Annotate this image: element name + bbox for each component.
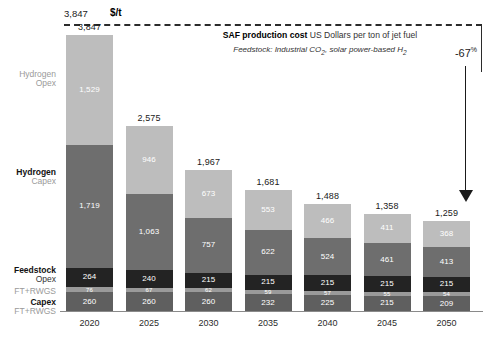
segment-capex-ft-rwgs-2035: 232: [245, 294, 292, 311]
x-axis-label-2035: 2035: [245, 318, 292, 328]
segment-capex-ft-rwgs-2020: 260: [66, 292, 113, 311]
segment-hydrogen-capex-2035: 622: [245, 230, 292, 275]
segment-value-label: 622: [261, 248, 275, 256]
segment-hydrogen-opex-2025: 946: [126, 126, 173, 194]
segment-value-label: 215: [321, 279, 335, 287]
saf-production-cost-chart: 3,847 $/t SAF production cost US Dollars…: [0, 0, 499, 346]
bar-total-label-2045: 1,358: [364, 201, 411, 211]
segment-hydrogen-opex-2020: 1,529: [66, 35, 113, 145]
x-axis-label-2050: 2050: [423, 318, 470, 328]
segment-value-label: 1,719: [79, 202, 100, 210]
segment-value-label: 413: [440, 258, 454, 266]
label-ft-rwgs-opex: FT+RWGS: [14, 287, 56, 296]
label-hydrogen-opex: Hydrogen Opex: [19, 70, 56, 88]
segment-feedstock-opex-2025: 240: [126, 270, 173, 287]
x-axis-label-2030: 2030: [185, 318, 232, 328]
segment-feedstock-opex-2045: 215: [364, 276, 411, 291]
segment-capex-ft-rwgs-2045: 215: [364, 296, 411, 311]
bar-2020: 3,8471,5291,71926476260: [66, 35, 113, 311]
segment-feedstock-opex-2050: 215: [423, 277, 470, 292]
segment-hydrogen-capex-2045: 461: [364, 243, 411, 276]
segment-value-label: 411: [380, 224, 393, 232]
label-feedstock-opex: Feedstock Opex: [14, 266, 56, 284]
segment-value-label: 215: [380, 280, 394, 288]
x-axis-label-2020: 2020: [66, 318, 113, 328]
bar-total-label-2035: 1,681: [245, 177, 292, 187]
segment-value-label: 240: [142, 275, 156, 283]
segment-hydrogen-capex-2020: 1,719: [66, 145, 113, 268]
bar-2050: 1,25936841321554209: [423, 221, 470, 311]
bar-2025: 2,5759461,06324067260: [126, 126, 173, 311]
segment-feedstock-opex-2040: 215: [304, 275, 351, 290]
segment-hydrogen-capex-2040: 524: [304, 238, 351, 276]
segment-hydrogen-opex-2040: 466: [304, 204, 351, 237]
label-ft-rwgs-capex: Capex FT+RWGS: [14, 298, 56, 316]
label-hydrogen-opex-line2: Opex: [19, 79, 56, 88]
x-axis-label-2025: 2025: [126, 318, 173, 328]
segment-value-label: 225: [321, 299, 335, 307]
segment-value-label: 260: [202, 298, 216, 306]
segment-feedstock-opex-2020: 264: [66, 268, 113, 287]
bar-total-label-2050: 1,259: [423, 208, 470, 218]
segment-value-label: 264: [83, 273, 97, 281]
label-hydrogen-capex: Hydrogen Capex: [16, 168, 56, 186]
label-feedstock-line2: Opex: [14, 275, 56, 284]
label-ft-opex-text: FT+RWGS: [14, 287, 56, 296]
bar-total-label-2020: 3,847: [66, 22, 113, 32]
row-label-column: Hydrogen Opex Hydrogen Capex Feedstock O…: [0, 0, 56, 346]
segment-hydrogen-opex-2050: 368: [423, 221, 470, 247]
segment-hydrogen-opex-2045: 411: [364, 214, 411, 243]
segment-hydrogen-opex-2035: 553: [245, 190, 292, 230]
segment-value-label: 209: [440, 300, 454, 308]
segment-capex-ft-rwgs-2050: 209: [423, 296, 470, 311]
segment-value-label: 946: [142, 156, 156, 164]
x-axis-label-2040: 2040: [304, 318, 351, 328]
bar-2040: 1,48846652421557225: [304, 204, 351, 311]
bars-container: 3,8471,5291,7192647626020202,5759461,063…: [60, 0, 499, 346]
bar-2045: 1,35841146121555215: [364, 214, 411, 311]
segment-capex-ft-rwgs-2030: 260: [185, 292, 232, 311]
segment-value-label: 524: [321, 253, 335, 261]
segment-value-label: 553: [261, 206, 275, 214]
segment-value-label: 466: [321, 217, 335, 225]
segment-value-label: 260: [142, 298, 156, 306]
label-ft-capex-line2: FT+RWGS: [14, 307, 56, 316]
segment-value-label: 673: [202, 190, 216, 198]
bar-2030: 1,96767375721562260: [185, 170, 232, 311]
segment-hydrogen-opex-2030: 673: [185, 170, 232, 218]
label-hydrogen-capex-line2: Capex: [16, 177, 56, 186]
segment-value-label: 461: [380, 256, 394, 264]
segment-feedstock-opex-2030: 215: [185, 273, 232, 288]
bar-total-label-2030: 1,967: [185, 157, 232, 167]
segment-value-label: 215: [261, 278, 275, 286]
segment-value-label: 1,063: [139, 228, 160, 236]
segment-capex-ft-rwgs-2025: 260: [126, 292, 173, 311]
segment-value-label: 215: [202, 276, 216, 284]
bar-total-label-2040: 1,488: [304, 191, 351, 201]
x-axis-label-2045: 2045: [364, 318, 411, 328]
segment-value-label: 260: [83, 298, 97, 306]
segment-feedstock-opex-2035: 215: [245, 275, 292, 290]
segment-hydrogen-capex-2050: 413: [423, 247, 470, 277]
segment-value-label: 215: [380, 299, 394, 307]
segment-value-label: 215: [440, 280, 454, 288]
segment-hydrogen-capex-2025: 1,063: [126, 194, 173, 270]
segment-capex-ft-rwgs-2040: 225: [304, 295, 351, 311]
bar-2035: 1,68155362221559232: [245, 190, 292, 311]
segment-value-label: 368: [440, 230, 454, 238]
segment-value-label: 757: [202, 241, 216, 249]
segment-value-label: 232: [261, 299, 275, 307]
segment-hydrogen-capex-2030: 757: [185, 218, 232, 272]
segment-value-label: 1,529: [79, 86, 100, 94]
bar-total-label-2025: 2,575: [126, 113, 173, 123]
